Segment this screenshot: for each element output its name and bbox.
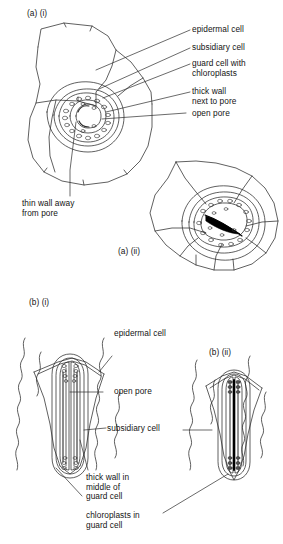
panel-b-ii-drawing [189, 356, 266, 480]
panel-label-a-ii: (a) (ii) [118, 247, 140, 257]
label-thin-wall-away-from-pore: thin wall away from pore [22, 199, 74, 218]
panel-label-a-i: (a) (i) [27, 9, 47, 19]
panel-a-i-drawing [28, 23, 152, 185]
label-subsidiary-cell-b: subsidiary cell [107, 424, 160, 434]
label-guard-cell-with-chloroplasts: guard cell with chloroplasts [192, 59, 246, 78]
label-epidermal-cell-b: epidermal cell [114, 329, 166, 339]
figure-drawing [0, 0, 283, 544]
panel-label-b-i: (b) (i) [29, 298, 49, 308]
label-thick-wall-next-to-pore: thick wall next to pore [192, 87, 236, 106]
panel-b-i-drawing [16, 338, 120, 478]
label-epidermal-cell: epidermal cell [192, 25, 244, 35]
panel-label-b-ii: (b) (ii) [209, 348, 231, 358]
panel-a-ii-drawing [150, 161, 278, 270]
label-open-pore: open pore [192, 109, 230, 119]
label-open-pore-b: open pore [114, 387, 152, 397]
stomata-figure: (a) (i) epidermal cell subsidiary cell g… [0, 0, 283, 544]
label-chloroplasts-in-guard-cell: chloroplasts in guard cell [86, 511, 140, 530]
label-thick-wall-middle-of-guard-cell: thick wall in middle of guard cell [86, 473, 129, 502]
label-subsidiary-cell: subsidiary cell [192, 43, 245, 53]
